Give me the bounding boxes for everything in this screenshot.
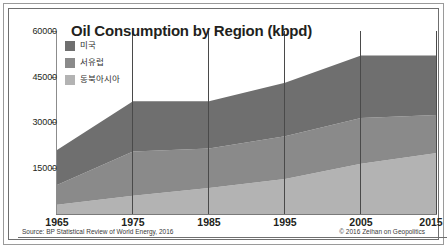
legend-swatch-northeast-asia (65, 75, 75, 85)
x-axis-label-1985: 1985 (197, 217, 220, 228)
legend-item-western-europe: 서유럽 (65, 56, 120, 69)
y-axis-label-15000: 15000 (15, 164, 57, 173)
footer-credit-text: © 2016 Zeihan on Geopolitics (339, 228, 425, 235)
y-axis-label-30000: 30000 (15, 118, 57, 127)
gridline-2005 (360, 31, 361, 214)
legend-item-us: 미국 (65, 39, 120, 52)
x-axis-label-1965: 1965 (45, 217, 68, 228)
x-axis-label-1995: 1995 (273, 217, 296, 228)
legend-label-northeast-asia: 동북아시아 (80, 75, 120, 84)
chart-title: Oil Consumption by Region (kbpd) (71, 22, 312, 39)
y-axis-label-60000: 60000 (15, 27, 57, 36)
chart-card: 60000 45000 30000 15000 1965 1975 1985 1… (8, 8, 439, 240)
legend-label-us: 미국 (80, 41, 96, 50)
gridline-1985 (208, 31, 209, 214)
footer-divider (18, 237, 447, 238)
legend-swatch-us (65, 41, 75, 51)
x-axis-label-2015: 2015 (419, 217, 442, 228)
y-axis-label-45000: 45000 (15, 73, 57, 82)
legend-label-western-europe: 서유럽 (80, 58, 104, 67)
chart-legend: 미국 서유럽 동북아시아 (65, 39, 120, 90)
gridline-2015 (436, 31, 437, 214)
legend-swatch-western-europe (65, 58, 75, 68)
x-axis-label-1975: 1975 (121, 217, 144, 228)
chart-screenshot: 60000 45000 30000 15000 1965 1975 1985 1… (0, 0, 447, 248)
legend-item-northeast-asia: 동북아시아 (65, 73, 120, 86)
gridline-1995 (284, 31, 285, 214)
x-axis-label-2005: 2005 (349, 217, 372, 228)
gridline-1975 (132, 31, 133, 214)
footer-source-text: Source: BP Statistical Review of World E… (22, 228, 173, 235)
x-axis-line (56, 214, 437, 215)
